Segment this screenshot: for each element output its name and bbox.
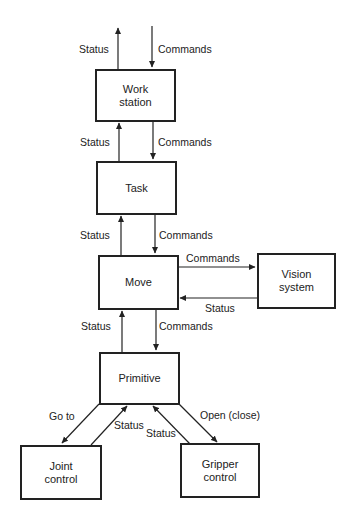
- move-prim-status-label: Status: [81, 320, 111, 332]
- joint-label-2: control: [44, 473, 77, 486]
- open-close-label: Open (close): [200, 409, 260, 421]
- primitive-label: Primitive: [118, 372, 160, 385]
- workstation-box: Workstation: [95, 69, 176, 122]
- top-status-label: Status: [79, 43, 109, 55]
- vision-label-2: system: [279, 281, 314, 294]
- gripper-label-2: control: [202, 471, 239, 484]
- primitive-box: Primitive: [99, 352, 180, 405]
- gripper-label-1: Gripper: [202, 458, 239, 471]
- joint-label-1: Joint: [44, 460, 77, 473]
- workstation-label-2: station: [119, 96, 151, 109]
- move-vision-commands-label: Commands: [186, 252, 240, 264]
- task-move-status-label: Status: [80, 229, 110, 241]
- move-box: Move: [98, 255, 179, 310]
- gripper-status-label: Status: [146, 427, 176, 439]
- task-move-commands-label: Commands: [159, 229, 213, 241]
- gripper-control-box: Grippercontrol: [180, 443, 260, 498]
- move-prim-commands-label: Commands: [159, 320, 213, 332]
- joint-status-label: Status: [114, 419, 144, 431]
- joint-control-box: Jointcontrol: [20, 445, 102, 500]
- top-commands-label: Commands: [158, 43, 212, 55]
- task-box: Task: [96, 161, 177, 215]
- goto-label: Go to: [49, 410, 75, 422]
- vision-system-box: Visionsystem: [257, 253, 336, 309]
- task-label: Task: [125, 182, 148, 195]
- vision-move-status-label: Status: [205, 302, 235, 314]
- workstation-label-1: Work: [119, 83, 151, 96]
- move-label: Move: [125, 276, 152, 289]
- ws-task-status-label: Status: [80, 136, 110, 148]
- vision-label-1: Vision: [279, 268, 314, 281]
- ws-task-commands-label: Commands: [158, 136, 212, 148]
